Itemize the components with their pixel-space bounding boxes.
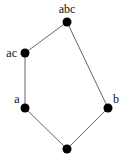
label-b: b xyxy=(113,92,119,106)
node-abc xyxy=(63,18,72,27)
node-ac xyxy=(21,49,30,58)
edge-b-bottom xyxy=(67,108,108,149)
label-abc: abc xyxy=(59,2,76,16)
hasse-diagram: abc ac a b xyxy=(0,0,125,159)
edge-abc-b xyxy=(67,22,108,108)
label-ac: ac xyxy=(6,46,17,60)
node-bottom xyxy=(63,145,72,154)
node-a xyxy=(21,104,30,113)
edge-abc-ac xyxy=(25,22,67,53)
label-a: a xyxy=(14,92,20,106)
node-b xyxy=(104,104,113,113)
edge-a-bottom xyxy=(25,108,67,149)
